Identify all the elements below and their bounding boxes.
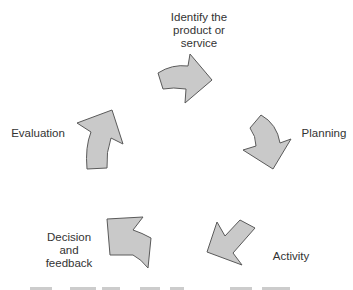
arrow-evaluation-to-identify-icon <box>77 110 123 169</box>
arrow-decision-to-evaluation-icon <box>107 217 151 268</box>
identify-line-1: Identify the <box>156 11 242 24</box>
stage-label-planning: Planning <box>300 127 348 140</box>
stage-label-identify: Identify the product or service <box>156 11 242 50</box>
identify-line-3: service <box>156 37 242 50</box>
stage-label-decision: Decision and feedback <box>40 231 98 270</box>
planning-line-1: Planning <box>300 127 348 140</box>
clipped-caption <box>30 284 330 290</box>
evaluation-line-1: Evaluation <box>10 127 66 140</box>
stage-label-activity: Activity <box>270 250 312 263</box>
activity-line-1: Activity <box>270 250 312 263</box>
identify-line-2: product or <box>156 24 242 37</box>
decision-line-3: feedback <box>40 257 98 270</box>
stage-label-evaluation: Evaluation <box>10 127 66 140</box>
arrow-planning-to-activity-icon <box>243 115 291 169</box>
arrow-identify-to-planning-icon <box>158 54 212 103</box>
arrow-activity-to-decision-icon <box>207 220 255 265</box>
decision-line-1: Decision <box>40 231 98 244</box>
cycle-diagram: Identify the product or service Planning… <box>0 0 353 290</box>
decision-line-2: and <box>40 244 98 257</box>
